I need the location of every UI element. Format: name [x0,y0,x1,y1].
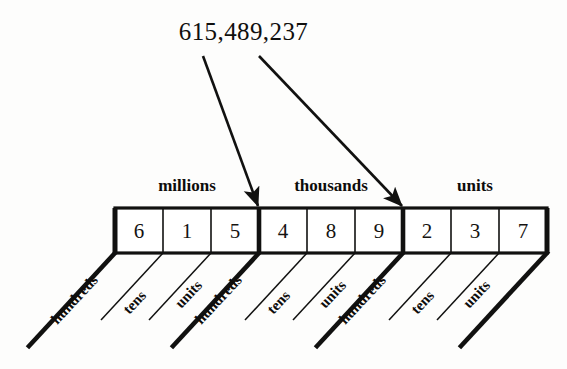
digit-cell-7: 3 [470,219,481,244]
digit-cell-3: 4 [278,219,289,244]
digit-cell-0: 6 [134,219,145,244]
digit-cell-1: 1 [182,219,193,244]
callout-number: 615,489,237 [0,18,567,46]
digit-cell-4: 8 [326,219,337,244]
group-label-millions: millions [158,176,216,196]
callout-number-text: 615,489,237 [179,18,308,45]
place-value-diagram: 615,489,237 millionsthousandsunits 61548… [0,0,567,369]
digit-cell-6: 2 [422,219,433,244]
group-label-units: units [457,176,493,196]
group-label-thousands: thousands [294,176,368,196]
digit-cell-5: 9 [374,219,385,244]
digit-cell-2: 5 [230,219,241,244]
digit-cell-8: 7 [518,219,529,244]
